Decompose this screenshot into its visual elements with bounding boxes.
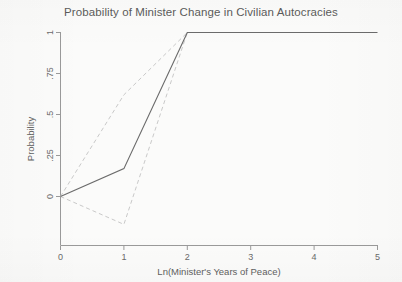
y-axis-title: Probability xyxy=(25,117,36,162)
lower-confidence-line xyxy=(61,33,378,225)
chart-plot-area: 1 .75 .5 .25 0 Probability 0 1 2 3 4 5 L… xyxy=(0,0,402,282)
x-tick-label: 0 xyxy=(58,252,63,262)
x-tick-label: 3 xyxy=(248,252,253,262)
x-tick-label: 2 xyxy=(185,252,190,262)
x-tick-label: 4 xyxy=(312,252,317,262)
x-tick-label: 1 xyxy=(121,252,126,262)
y-tick-label: .5 xyxy=(45,111,55,119)
predicted-probability-line xyxy=(61,33,378,197)
y-tick-label: .75 xyxy=(45,67,55,80)
y-tick-label: 1 xyxy=(45,30,55,35)
y-tick-label: 0 xyxy=(45,194,55,199)
y-tick-label: .25 xyxy=(45,149,55,162)
chart-figure: Probability of Minister Change in Civili… xyxy=(0,0,402,282)
x-axis-title: Ln(Minister's Years of Peace) xyxy=(157,266,280,277)
upper-confidence-line xyxy=(61,33,378,197)
x-tick-label: 5 xyxy=(375,252,380,262)
